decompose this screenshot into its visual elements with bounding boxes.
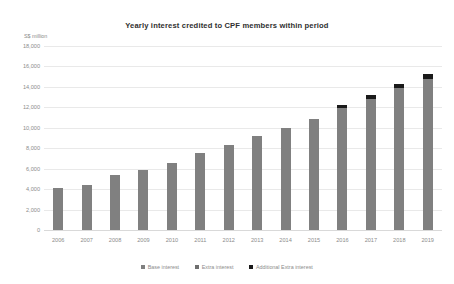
x-axis-tick-label: 2012	[215, 233, 243, 247]
y-axis-tick-label: 8,000	[26, 145, 40, 151]
bar-segment-base-interest	[366, 99, 376, 230]
bar-series-layer	[44, 46, 442, 230]
chart-legend: Base interestExtra interestAdditional Ex…	[0, 264, 454, 270]
x-axis-tick-label: 2007	[72, 233, 100, 247]
y-axis-tick-label: 0	[37, 227, 40, 233]
bar-segment-base-interest	[309, 119, 319, 230]
x-axis-tick-labels: 2006200720082009201020112012201320142015…	[44, 233, 442, 247]
bar-segment-base-interest	[195, 153, 205, 230]
chart-container: Yearly interest credited to CPF members …	[0, 0, 454, 284]
bar-stack[interactable]	[309, 119, 319, 230]
x-axis-tick-label: 2019	[413, 233, 441, 247]
bar-slot	[271, 46, 299, 230]
bar-stack[interactable]	[337, 105, 347, 230]
bar-slot	[186, 46, 214, 230]
y-axis-tick-label: 12,000	[23, 104, 40, 110]
bar-segment-base-interest	[167, 163, 177, 230]
y-axis-unit-label: S$ million	[24, 33, 47, 39]
bar-segment-base-interest	[138, 170, 148, 230]
bar-slot	[44, 46, 72, 230]
legend-swatch-icon	[195, 265, 199, 269]
bar-stack[interactable]	[281, 128, 291, 230]
bar-stack[interactable]	[82, 185, 92, 230]
x-axis-tick-label: 2015	[300, 233, 328, 247]
bar-stack[interactable]	[195, 153, 205, 230]
legend-swatch-icon	[141, 265, 145, 269]
y-axis-tick-label: 18,000	[23, 43, 40, 49]
bar-stack[interactable]	[138, 170, 148, 230]
bar-segment-base-interest	[394, 88, 404, 230]
y-axis-tick-label: 16,000	[23, 63, 40, 69]
bar-segment-base-interest	[110, 175, 120, 230]
bar-stack[interactable]	[224, 145, 234, 230]
bar-stack[interactable]	[110, 175, 120, 230]
bar-stack[interactable]	[366, 95, 376, 230]
bar-slot	[243, 46, 271, 230]
x-axis-tick-label: 2006	[44, 233, 72, 247]
bar-slot	[300, 46, 328, 230]
x-axis-tick-label: 2009	[129, 233, 157, 247]
y-axis-tick-label: 4,000	[26, 186, 40, 192]
y-axis-tick-label: 2,000	[26, 207, 40, 213]
legend-item[interactable]: Additional Extra interest	[249, 264, 312, 270]
bar-segment-base-interest	[53, 188, 63, 230]
bar-segment-base-interest	[252, 136, 262, 230]
bar-segment-base-interest	[281, 128, 291, 230]
bar-stack[interactable]	[394, 84, 404, 230]
bar-slot	[101, 46, 129, 230]
y-axis-tick-label: 10,000	[23, 125, 40, 131]
bar-stack[interactable]	[53, 188, 63, 230]
bar-stack[interactable]	[423, 74, 433, 230]
bar-slot	[129, 46, 157, 230]
legend-swatch-icon	[249, 265, 253, 269]
bar-slot	[357, 46, 385, 230]
bar-slot	[158, 46, 186, 230]
y-axis-tick-labels: 18,00016,00014,00012,00010,0008,0006,000…	[14, 46, 40, 230]
bar-segment-base-interest	[423, 79, 433, 230]
bar-segment-base-interest	[224, 145, 234, 230]
bar-slot	[413, 46, 441, 230]
x-axis-tick-label: 2010	[158, 233, 186, 247]
bar-stack[interactable]	[252, 136, 262, 230]
bar-stack[interactable]	[167, 163, 177, 230]
y-axis-tick-label: 6,000	[26, 166, 40, 172]
x-axis-tick-label: 2011	[186, 233, 214, 247]
x-axis-tick-label: 2014	[271, 233, 299, 247]
legend-item[interactable]: Base interest	[141, 264, 179, 270]
axis-baseline	[44, 230, 442, 231]
legend-label: Additional Extra interest	[256, 264, 313, 270]
x-axis-tick-label: 2016	[328, 233, 356, 247]
y-axis-tick-label: 14,000	[23, 84, 40, 90]
bar-slot	[215, 46, 243, 230]
bar-slot	[72, 46, 100, 230]
bar-segment-base-interest	[82, 185, 92, 230]
x-axis-tick-label: 2013	[243, 233, 271, 247]
chart-title: Yearly interest credited to CPF members …	[0, 21, 454, 30]
bar-segment-base-interest	[337, 108, 347, 230]
legend-label: Base interest	[148, 264, 179, 270]
bar-slot	[385, 46, 413, 230]
x-axis-tick-label: 2008	[101, 233, 129, 247]
legend-item[interactable]: Extra interest	[195, 264, 233, 270]
bar-slot	[328, 46, 356, 230]
x-axis-tick-label: 2017	[357, 233, 385, 247]
x-axis-tick-label: 2018	[385, 233, 413, 247]
legend-label: Extra interest	[202, 264, 234, 270]
